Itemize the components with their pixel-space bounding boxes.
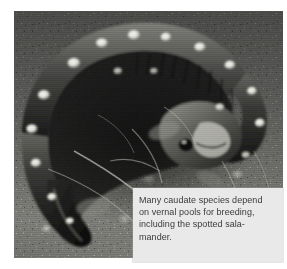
figure-caption-box: Many caudate species depend on vernal po… xyxy=(133,188,283,262)
salamander-eye-glint xyxy=(182,140,186,143)
salamander-eye xyxy=(179,139,194,152)
figure-root: Many caudate species depend on vernal po… xyxy=(0,0,287,269)
figure-caption-text: Many caudate species depend on vernal po… xyxy=(139,194,275,243)
